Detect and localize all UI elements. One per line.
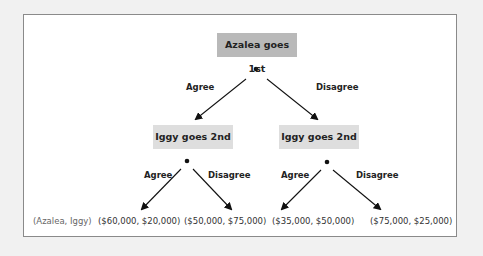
diagram-stage: Azalea goes 1st Agree Disagree Iggy goes… [0,0,483,256]
root-agree-label: Agree [186,82,214,92]
payoff-disagree-agree: ($35,000, $50,000) [272,216,354,226]
right-agree-label: Agree [281,170,309,180]
root-node: Azalea goes 1st [217,33,297,57]
payoff-agree-disagree: ($50,000, $75,000) [184,216,266,226]
left-disagree-label: Disagree [208,170,251,180]
left-child-node: Iggy goes 2nd [153,125,233,149]
root-disagree-label: Disagree [316,82,359,92]
left-agree-label: Agree [144,170,172,180]
payoff-legend: (Azalea, Iggy) [33,216,92,226]
right-child-node: Iggy goes 2nd [279,125,359,149]
payoff-disagree-disagree: ($75,000, $25,000) [370,216,452,226]
right-disagree-label: Disagree [356,170,399,180]
payoff-agree-agree: ($60,000, $20,000) [98,216,180,226]
